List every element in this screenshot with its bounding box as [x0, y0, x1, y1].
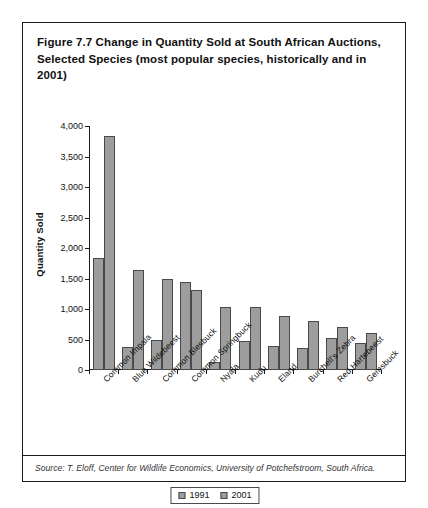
y-tick-label: 4,000 [60, 121, 83, 131]
bar-group [293, 126, 322, 370]
y-axis-title: Quantity Sold [34, 185, 45, 305]
y-tick-label: 0 [78, 365, 83, 375]
bar [279, 316, 290, 370]
legend-label: 1991 [189, 490, 209, 500]
y-tick-label: 3,000 [60, 182, 83, 192]
y-tick-label: 2,500 [60, 213, 83, 223]
x-tick-mark [89, 370, 90, 374]
legend-entry: 1991 [178, 490, 209, 500]
y-tick-label: 1,000 [60, 304, 83, 314]
bar [297, 348, 308, 370]
source-divider [23, 455, 405, 456]
bar [250, 307, 261, 370]
bar-group [177, 126, 206, 370]
bar-group [352, 126, 381, 370]
legend: 19912001 [170, 487, 259, 504]
legend-swatch-icon [221, 492, 228, 499]
chart-area: Quantity Sold 05001,0001,5002,0002,5003,… [23, 79, 407, 447]
bar-group [264, 126, 293, 370]
legend-label: 2001 [232, 490, 252, 500]
figure-frame: Figure 7.7 Change in Quantity Sold at So… [22, 22, 406, 482]
y-tick-label: 500 [68, 335, 83, 345]
y-tick-label: 2,000 [60, 243, 83, 253]
bar [104, 136, 115, 370]
figure-title: Figure 7.7 Change in Quantity Sold at So… [37, 34, 393, 84]
bar [239, 341, 250, 370]
bar-group [89, 126, 118, 370]
bar [93, 258, 104, 370]
legend-swatch-icon [178, 492, 185, 499]
y-tick-label: 3,500 [60, 152, 83, 162]
y-tick-label: 1,500 [60, 274, 83, 284]
plot-area: 05001,0001,5002,0002,5003,0003,5004,000 … [89, 126, 381, 370]
bar-group [323, 126, 352, 370]
bar [308, 321, 319, 370]
legend-entry: 2001 [221, 490, 252, 500]
source-note: Source: T. Eloff, Center for Wildlife Ec… [35, 463, 395, 473]
bar [268, 346, 279, 370]
